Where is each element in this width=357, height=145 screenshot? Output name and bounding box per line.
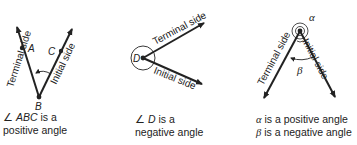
angle-symbol: ∠ [3,111,13,123]
rotation-arc [36,71,51,74]
caption-line2: positive angle [3,124,67,137]
point-a-label: A [27,43,35,54]
beta-label: β [296,64,303,76]
caption-panel-3: α is a positive angle β is a negative an… [256,113,352,139]
vertex-b [37,95,42,100]
terminal-side-label: Terminal side [151,9,209,47]
vertex-d [141,56,146,61]
alpha-label: α [309,11,315,23]
caption-line2-rest: is a negative angle [261,126,351,138]
initial-side-label: Initial side [152,65,198,92]
angle-name: ABC [16,111,38,123]
point-c-label: C [48,46,56,57]
vertex [298,29,303,34]
caption-line1-rest: is a positive angle [262,113,348,125]
initial-side-label: Initial side [300,36,331,81]
angle-symbol: ∠ [135,113,145,125]
caption-panel-2: ∠ D is a negative angle [135,113,203,139]
caption-panel-1: ∠ ABC is a positive angle [3,111,67,137]
caption-line1-rest: is a [156,113,175,125]
panel-negative-angle-d: D Terminal side Initial side [131,9,208,91]
panel-alpha-beta: α β Terminal side Initial side [255,11,335,98]
angle-name: D [148,113,156,125]
caption-line2: negative angle [135,126,203,139]
terminal-side-label: Terminal side [4,29,33,89]
caption-line1-rest: is a [38,111,57,123]
panel-positive-angle-abc: Terminal side Initial side A C B [4,27,77,112]
vertex-d-label: D [133,53,140,64]
